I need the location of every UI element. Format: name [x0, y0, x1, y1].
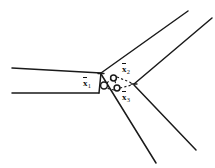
figure-container: x1 x2 x3 — [0, 0, 215, 168]
node-label-x2-symbol: x — [122, 65, 127, 74]
branch-lower-right — [101, 74, 156, 163]
branch-far-lower-right — [134, 85, 196, 150]
branch-far-upper-right — [134, 18, 212, 84]
node-label-x3-subscript: 3 — [127, 96, 130, 103]
node-marker-x3 — [114, 85, 120, 91]
dashed-edge-x2-x3 — [115, 81, 116, 85]
node-label-x2-overbar — [122, 63, 126, 64]
diagram-canvas — [0, 0, 215, 168]
node-label-x2: x2 — [122, 65, 130, 76]
node-label-x1-symbol: x — [83, 79, 88, 88]
node-label-x3-symbol: x — [122, 93, 127, 102]
dashed-edge-x3-right-vertex — [120, 85, 132, 88]
node-label-x1-subscript: 1 — [88, 82, 91, 89]
node-marker-x1 — [101, 82, 108, 89]
node-label-x2-subscript: 2 — [127, 68, 130, 75]
branch-upper-right — [101, 11, 188, 73]
dashed-edge-x2-right-vertex — [117, 77, 132, 83]
node-label-x1: x1 — [83, 79, 91, 90]
branch-upper-left — [12, 68, 101, 73]
node-label-x3-overbar — [122, 91, 126, 92]
node-marker-x2 — [111, 75, 117, 81]
solid-branch-lines — [12, 11, 212, 163]
node-label-x3: x3 — [122, 93, 130, 104]
node-label-x1-overbar — [83, 77, 87, 78]
